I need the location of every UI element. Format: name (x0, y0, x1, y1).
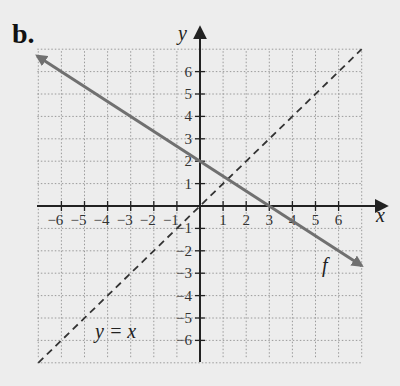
y-tick-label: 4 (185, 108, 193, 124)
y-tick-label: −1 (176, 220, 192, 236)
y-axis-label: y (176, 22, 187, 45)
x-tick-label: −2 (140, 212, 156, 228)
x-tick-label: 5 (312, 212, 320, 228)
x-tick-label: −3 (117, 212, 133, 228)
y-tick-label: −5 (176, 310, 192, 326)
x-tick-label: 6 (335, 212, 343, 228)
y-tick-label: 6 (185, 64, 193, 80)
y-tick-label: −4 (176, 288, 192, 304)
y-tick-label: −2 (176, 243, 192, 259)
x-tick-label: −4 (94, 212, 110, 228)
y-tick-label: 1 (185, 176, 193, 192)
x-tick-label: −6 (47, 212, 63, 228)
coordinate-plane: xy−6−5−4−3−2−1123456654321−1−2−3−4−5−6fy… (0, 0, 400, 386)
x-tick-label: 2 (242, 212, 250, 228)
x-tick-label: 1 (219, 212, 227, 228)
graph-figure: b. xy−6−5−4−3−2−1123456654321−1−2−3−4−5−… (0, 0, 400, 386)
y-tick-label: 5 (185, 86, 193, 102)
y-tick-label: 3 (185, 131, 193, 147)
x-tick-label: −5 (71, 212, 87, 228)
x-tick-label: 3 (266, 212, 274, 228)
y-tick-label: −6 (176, 332, 192, 348)
identity-label: y = x (93, 320, 136, 343)
x-axis-label: x (375, 204, 385, 226)
y-tick-label: −3 (176, 265, 192, 281)
